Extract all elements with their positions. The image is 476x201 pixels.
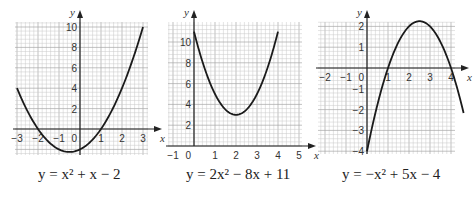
y-tick-label: −2 xyxy=(353,105,365,116)
x-tick-label: −1 xyxy=(167,150,179,161)
y-axis-arrow-icon xyxy=(191,10,197,18)
y-tick-label: 8 xyxy=(71,42,77,53)
x-tick-label: 2 xyxy=(406,72,412,83)
y-axis-label: y xyxy=(356,6,362,18)
graph-1: xy−3−2−10123246810 xyxy=(11,6,165,155)
y-axis-label: y xyxy=(69,6,75,18)
x-tick-label: 3 xyxy=(140,133,146,144)
caption-graph-1: y = x² + x − 2 xyxy=(38,166,120,183)
y-tick-label: 2 xyxy=(358,21,364,32)
x-tick-label: 3 xyxy=(254,150,260,161)
y-tick-label: −1 xyxy=(353,84,365,95)
graph-2: xy−1012345246810 xyxy=(166,6,319,161)
y-tick-label: 6 xyxy=(185,79,191,90)
x-tick-label: 5 xyxy=(296,150,302,161)
x-axis-label: x xyxy=(159,132,165,144)
x-tick-label: −1 xyxy=(340,72,352,83)
x-tick-label: −1 xyxy=(53,133,65,144)
x-axis-label: x xyxy=(313,149,319,161)
x-tick-label: 1 xyxy=(98,133,104,144)
y-axis-label: y xyxy=(183,6,189,18)
x-tick-label: 2 xyxy=(233,150,239,161)
x-tick-label: 4 xyxy=(275,150,281,161)
x-tick-label: 2 xyxy=(119,133,125,144)
x-tick-label: 1 xyxy=(212,150,218,161)
caption-graph-3: y = −x² + 5x − 4 xyxy=(342,166,440,183)
x-tick-label: 0 xyxy=(71,133,77,144)
y-tick-label: 2 xyxy=(185,120,191,131)
y-tick-label: 1 xyxy=(358,42,364,53)
x-tick-label: 3 xyxy=(427,72,433,83)
y-tick-label: 10 xyxy=(66,22,78,33)
y-tick-label: −4 xyxy=(353,146,365,157)
x-axis-label: x xyxy=(466,71,472,83)
caption-graph-2: y = 2x² − 8x + 11 xyxy=(186,166,290,183)
y-tick-label: 6 xyxy=(71,63,77,74)
y-tick-label: 8 xyxy=(185,58,191,69)
y-tick-label: 2 xyxy=(71,104,77,115)
x-tick-label: 0 xyxy=(358,72,364,83)
y-tick-label: 4 xyxy=(71,83,77,94)
x-tick-label: −3 xyxy=(11,133,23,144)
graph-3: xy−2−101234−4−3−2−112 xyxy=(316,6,472,157)
y-axis-arrow-icon xyxy=(77,10,83,18)
y-tick-label: 10 xyxy=(180,37,192,48)
x-tick-label: 0 xyxy=(185,150,191,161)
y-tick-label: −3 xyxy=(353,125,365,136)
y-axis-arrow-icon xyxy=(364,10,370,18)
x-tick-label: −2 xyxy=(319,72,331,83)
y-tick-label: 4 xyxy=(185,99,191,110)
parabola-curve xyxy=(367,21,464,151)
